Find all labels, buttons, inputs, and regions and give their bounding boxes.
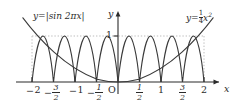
x-tick-label-2: 2 — [201, 85, 207, 95]
x-tick-label-3-2: 32 — [179, 84, 186, 101]
tick-value: 1 — [77, 84, 83, 95]
tick-fraction: 12 — [136, 84, 143, 101]
curve-label-parabola: y=14x2 — [186, 10, 212, 25]
figure-canvas: y=|sin 2πx| y=14x2 y x 1 O −2 −32 −1 −12… — [0, 0, 241, 111]
y-axis-label: y — [108, 9, 113, 19]
fraction-denominator: 2 — [136, 94, 143, 102]
curve-label-right-eq: = — [191, 13, 199, 23]
fraction-denominator: 2 — [95, 94, 102, 102]
x-axis-label: x — [224, 84, 229, 94]
x-axis-arrow — [214, 80, 220, 85]
origin-label: O — [108, 85, 116, 95]
y-tick-label-1: 1 — [106, 30, 112, 40]
fraction-numerator: 1 — [95, 84, 102, 92]
fraction-denominator: 2 — [179, 94, 186, 102]
tick-fraction: 32 — [52, 84, 59, 101]
x-tick-label-minus-2: −2 — [26, 85, 41, 95]
minus-sign: − — [44, 88, 52, 98]
curve-label-right-exponent: 2 — [208, 11, 212, 18]
fraction-numerator: 1 — [136, 84, 143, 92]
fraction-numerator: 3 — [179, 84, 186, 92]
tick-value: 2 — [34, 84, 40, 95]
x-tick-label-1-2: 12 — [136, 84, 143, 101]
curve-label-left-rhs: |sin 2πx| — [46, 11, 85, 21]
x-tick-label-1: 1 — [158, 85, 164, 95]
curve-label-abs-sine: y=|sin 2πx| — [33, 12, 85, 21]
fraction-numerator: 3 — [52, 84, 59, 92]
tick-fraction: 32 — [179, 84, 186, 101]
x-tick-label-minus-1-2: −12 — [87, 84, 103, 101]
x-tick-label-minus-1: −1 — [69, 85, 84, 95]
minus-sign: − — [87, 88, 95, 98]
y-axis-arrow — [116, 11, 121, 17]
curve-label-left-eq: = — [38, 11, 46, 21]
x-tick-label-minus-3-2: −32 — [44, 84, 60, 101]
tick-fraction: 12 — [95, 84, 102, 101]
fraction-denominator: 2 — [52, 94, 59, 102]
